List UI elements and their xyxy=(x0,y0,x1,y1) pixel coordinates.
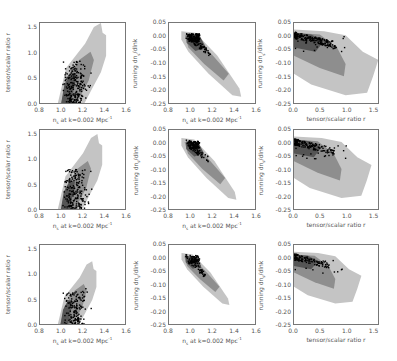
x-tick-label: 1.0 xyxy=(339,107,355,113)
x-axis-label: ns at k=0.002 Mpc-1 xyxy=(168,115,256,125)
y-axis-label: running dns/dlnk xyxy=(256,130,265,211)
y-tick-label: 1.5 xyxy=(15,246,37,252)
y-tick-label: -0.05 xyxy=(144,46,166,52)
y-tick-label: -0.20 xyxy=(144,87,166,93)
x-tick-label: 0.8 xyxy=(160,213,176,219)
y-tick-label: -0.15 xyxy=(269,295,291,301)
y-tick-label: 0.05 xyxy=(144,126,166,132)
x-tick-label: 1.6 xyxy=(248,213,264,219)
y-tick-label: 1.0 xyxy=(15,156,37,162)
x-tick-label: 1.4 xyxy=(96,107,112,113)
x-tick-label: 0.5 xyxy=(312,328,328,334)
x-tick-label: 1.6 xyxy=(118,107,134,113)
y-tick-label: -0.10 xyxy=(144,282,166,288)
plot-area xyxy=(168,244,256,325)
y-tick-label: -0.05 xyxy=(269,153,291,159)
x-tick-label: 0.5 xyxy=(312,107,328,113)
x-tick-label: 1.0 xyxy=(53,213,69,219)
x-tick-label: 1.0 xyxy=(182,328,198,334)
y-tick-label: -0.10 xyxy=(144,167,166,173)
y-tick-label: -0.20 xyxy=(144,309,166,315)
y-tick-label: 0.5 xyxy=(15,182,37,188)
plot-area xyxy=(168,129,256,210)
plot-area xyxy=(293,244,379,325)
y-tick-label: 0.00 xyxy=(269,255,291,261)
y-tick-label: 0.05 xyxy=(269,241,291,247)
x-tick-label: 1.2 xyxy=(204,328,220,334)
y-tick-label: 0.05 xyxy=(269,19,291,25)
x-tick-label: 1.4 xyxy=(226,213,242,219)
y-tick-label: -0.20 xyxy=(269,194,291,200)
y-tick-label: -0.15 xyxy=(269,180,291,186)
y-tick-label: -0.20 xyxy=(269,87,291,93)
x-tick-label: 1.5 xyxy=(366,107,382,113)
x-axis-label: tensor/scalar ratio r xyxy=(293,221,379,228)
x-axis-label: tensor/scalar ratio r xyxy=(293,115,379,122)
y-tick-label: 0.00 xyxy=(269,140,291,146)
x-axis-label: ns at k=0.002 Mpc-1 xyxy=(168,336,256,346)
plot-area xyxy=(39,129,126,210)
y-tick-label: -0.05 xyxy=(144,268,166,274)
y-tick-label: 0.00 xyxy=(144,255,166,261)
y-axis-label: running dns/dlnk xyxy=(131,245,140,326)
y-tick-label: -0.15 xyxy=(144,74,166,80)
x-tick-label: 1.2 xyxy=(204,107,220,113)
x-tick-label: 0.8 xyxy=(160,328,176,334)
x-tick-label: 0.8 xyxy=(160,107,176,113)
y-tick-label: 1.5 xyxy=(15,131,37,137)
x-axis-label: ns at k=0.002 Mpc-1 xyxy=(39,115,126,125)
x-tick-label: 0.5 xyxy=(312,213,328,219)
x-tick-label: 0.8 xyxy=(31,107,47,113)
plot-area xyxy=(168,22,256,104)
y-tick-label: -0.15 xyxy=(144,180,166,186)
y-tick-label: 1.0 xyxy=(15,50,37,56)
x-axis-label: ns at k=0.002 Mpc-1 xyxy=(168,221,256,231)
x-tick-label: 1.6 xyxy=(118,213,134,219)
y-tick-label: -0.15 xyxy=(269,74,291,80)
x-tick-label: 1.4 xyxy=(226,107,242,113)
x-tick-label: 1.5 xyxy=(366,213,382,219)
y-axis-label: tensor/scalar ratio r xyxy=(4,129,11,210)
y-tick-label: -0.10 xyxy=(269,60,291,66)
y-axis-label: running dns/dlnk xyxy=(131,130,140,211)
y-tick-label: 0.05 xyxy=(144,241,166,247)
x-axis-label: ns at k=0.002 Mpc-1 xyxy=(39,336,126,346)
x-tick-label: 1.2 xyxy=(75,328,91,334)
y-axis-label: running dns/dlnk xyxy=(131,23,140,105)
x-tick-label: 1.0 xyxy=(53,328,69,334)
y-axis-label: running dns/dlnk xyxy=(256,245,265,326)
x-tick-label: 1.4 xyxy=(226,328,242,334)
y-tick-label: 1.5 xyxy=(15,24,37,30)
x-tick-label: 1.6 xyxy=(118,328,134,334)
y-tick-label: 0.5 xyxy=(15,75,37,81)
y-tick-label: 0.00 xyxy=(269,33,291,39)
x-tick-label: 0.0 xyxy=(285,328,301,334)
x-tick-label: 1.6 xyxy=(248,107,264,113)
x-tick-label: 1.2 xyxy=(204,213,220,219)
x-tick-label: 1.4 xyxy=(96,213,112,219)
y-tick-label: 0.05 xyxy=(269,126,291,132)
x-tick-label: 1.0 xyxy=(53,107,69,113)
y-tick-label: -0.05 xyxy=(269,46,291,52)
plot-area xyxy=(39,244,126,325)
x-axis-label: ns at k=0.002 Mpc-1 xyxy=(39,221,126,231)
y-axis-label: running dns/dlnk xyxy=(256,23,265,105)
x-tick-label: 1.0 xyxy=(182,107,198,113)
x-tick-label: 1.0 xyxy=(339,213,355,219)
y-tick-label: 0.05 xyxy=(144,19,166,25)
y-axis-label: tensor/scalar ratio r xyxy=(4,22,11,104)
x-tick-label: 1.4 xyxy=(96,328,112,334)
y-tick-label: -0.10 xyxy=(269,282,291,288)
y-tick-label: -0.10 xyxy=(269,167,291,173)
x-tick-label: 0.8 xyxy=(31,213,47,219)
y-tick-label: 0.00 xyxy=(144,140,166,146)
x-tick-label: 0.0 xyxy=(285,107,301,113)
x-tick-label: 1.0 xyxy=(182,213,198,219)
y-tick-label: 0.5 xyxy=(15,297,37,303)
y-tick-label: -0.20 xyxy=(144,194,166,200)
x-axis-label: tensor/scalar ratio r xyxy=(293,336,379,343)
y-tick-label: 1.0 xyxy=(15,271,37,277)
x-tick-label: 1.2 xyxy=(75,107,91,113)
plot-area xyxy=(39,22,126,104)
y-tick-label: -0.15 xyxy=(144,295,166,301)
